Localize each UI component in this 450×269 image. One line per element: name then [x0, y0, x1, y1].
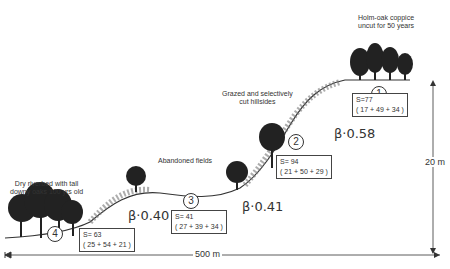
site-2-s: S= 94: [280, 157, 328, 167]
site-4-richness-box: S= 63 ( 25 + 54 + 21 ): [79, 228, 135, 252]
site-1-richness-box: S=77 ( 17 + 49 + 34 ): [352, 93, 408, 117]
beta-3-4: β·0.40: [128, 208, 169, 223]
site-2-number: 2: [288, 134, 304, 150]
width-dimension: 500 m: [193, 249, 222, 259]
site-4-label-line2: downy oaks 100 yrs old: [10, 188, 83, 196]
site-2-richness-box: S= 94 ( 21 + 50 + 29 ): [276, 155, 332, 179]
site-4-label-line1: Dry riverbed with tall: [10, 180, 83, 188]
site-4-breakdown: ( 25 + 54 + 21 ): [83, 240, 131, 250]
site-1-label-line2: uncut for 50 years: [358, 22, 414, 30]
site-1-breakdown: ( 17 + 49 + 34 ): [356, 105, 404, 115]
site-3-label: Abandoned fields: [158, 157, 212, 165]
site-1-label-line1: Holm-oak coppice: [358, 14, 414, 22]
site-3-label-line1: Abandoned fields: [158, 157, 212, 165]
site-3-richness-box: S= 41 ( 27 + 39 + 34 ): [171, 210, 227, 234]
site-2-label: Grazed and selectively cut hillsides: [222, 90, 293, 106]
site-3-s: S= 41: [175, 212, 223, 222]
height-dimension: 20 m: [423, 157, 447, 167]
landscape-diagram: Holm-oak coppice uncut for 50 years Graz…: [0, 0, 450, 269]
site-1-s: S=77: [356, 95, 404, 105]
site-4-number: 4: [47, 226, 63, 242]
beta-1-2: β·0.58: [334, 126, 375, 141]
site-2-label-line1: Grazed and selectively: [222, 90, 293, 98]
site-2-label-line2: cut hillsides: [222, 98, 293, 106]
site-4-s: S= 63: [83, 230, 131, 240]
site-3-breakdown: ( 27 + 39 + 34 ): [175, 222, 223, 232]
site-2-breakdown: ( 21 + 50 + 29 ): [280, 167, 328, 177]
site-4-label: Dry riverbed with tall downy oaks 100 yr…: [10, 180, 83, 196]
beta-2-3: β·0.41: [242, 199, 283, 214]
site-1-label: Holm-oak coppice uncut for 50 years: [358, 14, 414, 30]
site-3-number: 3: [183, 193, 199, 209]
